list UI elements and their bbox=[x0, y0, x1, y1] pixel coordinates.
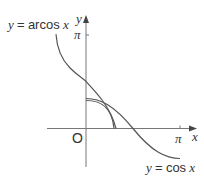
label-fn: arcos bbox=[28, 17, 60, 32]
label-y: y bbox=[8, 17, 14, 32]
cos-label: y = cos x bbox=[146, 160, 195, 176]
label-arg: x bbox=[63, 17, 69, 32]
x-axis-label: x bbox=[192, 129, 198, 145]
y-axis bbox=[83, 15, 89, 167]
x-tick-pi-label: π bbox=[175, 131, 182, 147]
label-arg: x bbox=[189, 160, 195, 175]
label-eq: = bbox=[17, 17, 25, 32]
label-fn: cos bbox=[166, 160, 186, 175]
graph-canvas: y = arcos x y = cos x y π x π O bbox=[0, 0, 204, 182]
y-axis-label: y bbox=[76, 11, 82, 27]
label-eq: = bbox=[155, 160, 163, 175]
origin-label: O bbox=[72, 130, 83, 146]
label-y: y bbox=[146, 160, 152, 175]
y-tick-pi-label: π bbox=[74, 27, 81, 43]
cos-inverse-arc bbox=[86, 101, 114, 129]
arccos-label: y = arcos x bbox=[8, 17, 69, 33]
